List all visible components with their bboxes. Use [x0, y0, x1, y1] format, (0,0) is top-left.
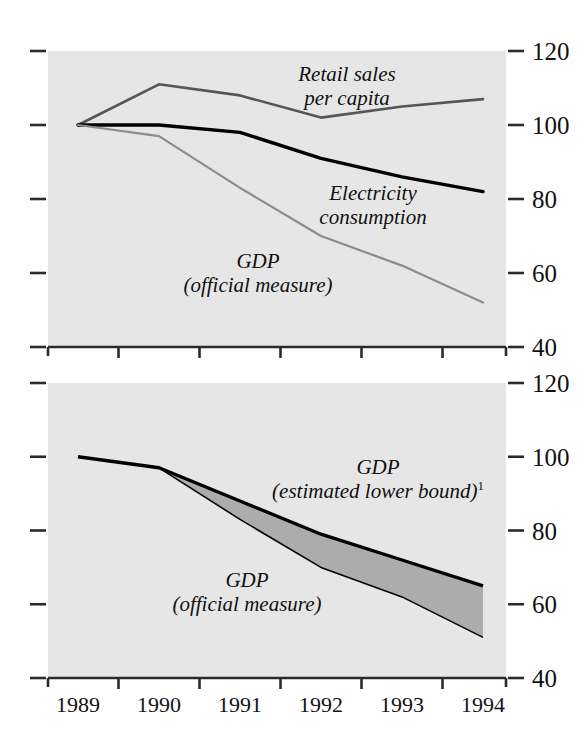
annotation-gdp-official-line1: GDP: [236, 249, 279, 273]
y-axis-tick-label: 100: [532, 444, 570, 471]
annotation-gdp-lower-bound-superscript: 1: [477, 478, 484, 493]
y-axis-tick-label: 80: [532, 518, 557, 545]
annotation-electricity-line2: consumption: [319, 205, 426, 229]
chart-panel-top: 120100806040Retail salesper capitaElectr…: [0, 0, 585, 374]
y-axis-tick-label: 120: [532, 38, 570, 65]
y-axis-tick-label: 80: [532, 186, 557, 213]
gdp-range-area-chart: 120100806040198919901991199219931994GDP(…: [0, 374, 585, 748]
y-axis-tick-label: 120: [532, 374, 570, 397]
y-axis-tick-label: 60: [532, 591, 557, 618]
x-axis-tick-label-1993: 1993: [380, 692, 424, 717]
annotation-retail-sales: Retail salesper capita: [297, 62, 395, 110]
annotation-retail-sales-line2: per capita: [302, 86, 390, 110]
y-axis-tick-label: 40: [532, 665, 557, 692]
annotation-gdp-official-line1: GDP: [225, 568, 268, 592]
annotation-gdp-official-line2: (official measure): [172, 592, 321, 616]
indicators-line-chart: 120100806040Retail salesper capitaElectr…: [0, 0, 585, 374]
annotation-gdp-lower-bound-line2: (estimated lower bound)1: [272, 478, 484, 503]
annotation-retail-sales-line1: Retail sales: [297, 62, 395, 86]
annotation-electricity: Electricityconsumption: [319, 181, 426, 229]
y-axis-tick-label: 40: [532, 334, 557, 361]
annotation-gdp-official-line2: (official measure): [183, 273, 332, 297]
y-axis-tick-label: 100: [532, 112, 570, 139]
x-axis-tick-label-1991: 1991: [218, 692, 262, 717]
y-axis-tick-label: 60: [532, 260, 557, 287]
annotation-electricity-line1: Electricity: [328, 181, 417, 205]
plot-area-background: [48, 51, 506, 347]
x-axis-tick-label-1989: 1989: [56, 692, 100, 717]
x-axis-tick-label-1992: 1992: [299, 692, 343, 717]
annotation-gdp-lower-bound-line1: GDP: [356, 455, 399, 479]
chart-panel-bottom: 120100806040198919901991199219931994GDP(…: [0, 374, 585, 748]
x-axis-tick-label-1994: 1994: [461, 692, 505, 717]
x-axis-tick-label-1990: 1990: [137, 692, 181, 717]
